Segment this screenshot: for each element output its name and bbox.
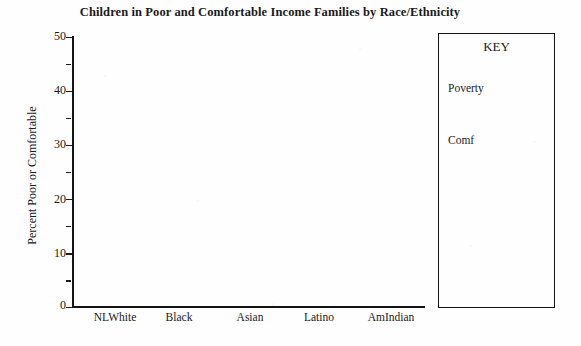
y-tick-major	[66, 145, 72, 146]
y-axis-label-10: 10	[40, 247, 66, 259]
y-axis-line	[72, 36, 74, 308]
y-tick-major	[66, 199, 72, 200]
x-category-black: Black	[148, 311, 210, 323]
x-category-nlwhite: NLWhite	[78, 311, 152, 323]
y-tick-minor	[66, 280, 71, 281]
y-axis-label-50: 50	[40, 30, 66, 42]
legend-heading: KEY	[439, 39, 554, 55]
x-axis-line	[72, 306, 425, 308]
legend-entry-comf: Comf	[448, 134, 474, 146]
y-tick-major	[66, 307, 72, 308]
y-axis-label-0: 0	[40, 299, 66, 311]
x-category-latino: Latino	[287, 311, 351, 323]
y-tick-major	[66, 37, 72, 38]
x-category-amindian: AmIndian	[352, 311, 430, 323]
plot-area	[74, 37, 425, 306]
legend-entry-poverty: Poverty	[448, 82, 484, 94]
figure-page: Children in Poor and Comfortable Income …	[0, 0, 581, 346]
y-tick-major	[66, 253, 72, 254]
y-tick-minor	[66, 64, 71, 65]
y-tick-minor	[66, 226, 71, 227]
y-tick-major	[66, 91, 72, 92]
legend-key-box: KEY Poverty Comf	[438, 33, 555, 308]
y-axis-label-30: 30	[40, 138, 66, 150]
y-axis-label-20: 20	[40, 193, 66, 205]
x-category-asian: Asian	[218, 311, 282, 323]
chart-title: Children in Poor and Comfortable Income …	[0, 5, 540, 20]
y-tick-minor	[66, 172, 71, 173]
y-tick-minor	[66, 118, 71, 119]
y-axis-label-40: 40	[40, 84, 66, 96]
y-axis-title: Percent Poor or Comfortable	[25, 76, 40, 276]
